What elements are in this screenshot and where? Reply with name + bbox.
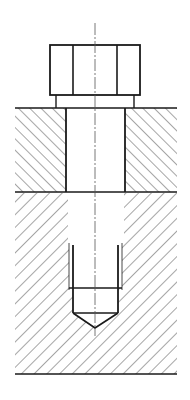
upper-plate-right-hatch (125, 108, 177, 192)
upper-plate (15, 108, 177, 192)
lower-plate-left-hatch (15, 193, 68, 374)
upper-plate-left-hatch (15, 108, 66, 192)
technical-drawing (0, 0, 190, 400)
lower-plate-bottom-hatch (68, 244, 124, 374)
lower-plate (15, 193, 177, 374)
tapped-hole (69, 243, 122, 328)
lower-plate-right-hatch (124, 193, 177, 374)
